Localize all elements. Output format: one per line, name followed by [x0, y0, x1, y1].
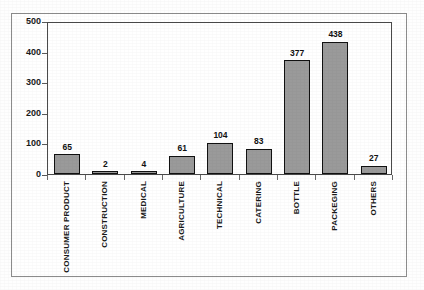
bar-value-label: 61	[177, 144, 186, 153]
x-category-label: BOTTLE	[292, 181, 301, 214]
bar-slot: 65	[48, 23, 86, 174]
x-label-slot: BOTTLE	[277, 181, 315, 276]
x-tick-mark	[354, 175, 355, 180]
x-label-slot: TECHNICAL	[200, 181, 238, 276]
bar-slot: 4	[125, 23, 163, 174]
x-tick-mark	[162, 175, 163, 180]
x-category-label: TECHNICAL	[215, 181, 224, 229]
x-category-label: MEDICAL	[139, 181, 148, 219]
x-category-label: CATERING	[254, 181, 263, 224]
bar-value-label: 27	[369, 154, 378, 163]
x-label-slot: CATERING	[239, 181, 277, 276]
bar-value-label: 104	[213, 131, 227, 140]
y-tick-label: 300	[11, 78, 41, 87]
x-category-label: OTHERS	[369, 181, 378, 216]
x-label-slot: MEDICAL	[124, 181, 162, 276]
x-tick-mark	[47, 175, 48, 180]
bar	[54, 154, 80, 174]
x-tick-mark	[239, 175, 240, 180]
y-tick-label: 500	[11, 17, 41, 26]
x-label-slot: CONSUMER PRODUCT	[47, 181, 85, 276]
bar-chart-figure: 5004003002001000 6524611048337743827 CON…	[0, 0, 424, 290]
y-tick-label: 200	[11, 109, 41, 118]
x-tick-mark	[277, 175, 278, 180]
x-label-slot: PACKEGING	[315, 181, 353, 276]
bar-value-label: 4	[141, 160, 146, 169]
bar-slot: 27	[355, 23, 393, 174]
bar-value-label: 83	[254, 137, 263, 146]
x-label-slot: OTHERS	[354, 181, 392, 276]
bar	[361, 166, 387, 174]
bar	[322, 42, 348, 174]
bar	[284, 60, 310, 174]
bar-series: 6524611048337743827	[48, 23, 390, 174]
y-tick-label: 100	[11, 139, 41, 148]
x-tick-mark	[200, 175, 201, 180]
x-axis-labels: CONSUMER PRODUCTCONSTRUCTIONMEDICALAGRIC…	[47, 181, 392, 276]
x-tick-mark	[315, 175, 316, 180]
bar-slot: 61	[163, 23, 201, 174]
y-tick-label: 0	[11, 170, 41, 179]
bar-slot: 2	[86, 23, 124, 174]
x-label-slot: CONSTRUCTION	[85, 181, 123, 276]
bar-slot: 104	[201, 23, 239, 174]
bar-value-label: 2	[103, 160, 108, 169]
x-tick-mark	[85, 175, 86, 180]
bar	[207, 143, 233, 174]
bar	[92, 171, 118, 174]
bar-slot: 377	[278, 23, 316, 174]
x-tick-mark	[124, 175, 125, 180]
y-tick-label: 400	[11, 48, 41, 57]
bar	[131, 171, 157, 174]
x-category-label: CONSUMER PRODUCT	[62, 181, 71, 273]
bar	[169, 156, 195, 174]
bar-slot: 438	[316, 23, 354, 174]
x-category-label: AGRICULTURE	[177, 181, 186, 241]
x-tick-mark	[392, 175, 393, 180]
bar-value-label: 65	[62, 143, 71, 152]
bar-slot: 83	[240, 23, 278, 174]
x-category-label: PACKEGING	[330, 181, 339, 231]
x-label-slot: AGRICULTURE	[162, 181, 200, 276]
bar-value-label: 377	[290, 49, 304, 58]
bar	[246, 149, 272, 174]
bar-value-label: 438	[328, 30, 342, 39]
x-category-label: CONSTRUCTION	[100, 181, 109, 248]
x-axis-ticks	[47, 175, 392, 180]
